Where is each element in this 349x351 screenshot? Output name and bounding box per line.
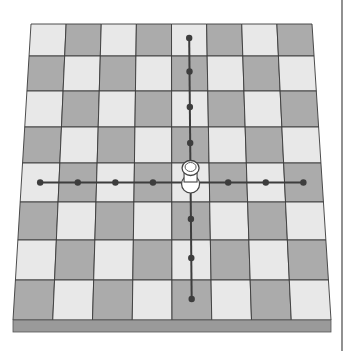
move-dot (263, 179, 269, 185)
dark-square (18, 202, 58, 240)
dark-square (210, 240, 250, 280)
move-dot (186, 35, 192, 41)
dark-square (61, 91, 99, 127)
light-square (278, 56, 316, 91)
board-edge (13, 320, 331, 332)
white-rook-icon (182, 161, 200, 194)
rook-movement-diagram (0, 0, 349, 351)
move-dot (75, 179, 81, 185)
board-front-edge (13, 320, 331, 332)
dark-square (136, 24, 172, 56)
light-square (94, 240, 134, 280)
dark-square (207, 24, 243, 56)
dark-square (277, 24, 314, 56)
dark-square (65, 24, 102, 56)
dark-square (287, 240, 328, 280)
move-dot (188, 296, 194, 302)
dark-square (133, 240, 172, 280)
light-square (53, 280, 94, 320)
move-dot (300, 179, 306, 185)
light-square (56, 202, 96, 240)
dark-square (248, 202, 288, 240)
light-square (60, 127, 98, 163)
move-dot (187, 104, 193, 110)
dark-square (99, 56, 136, 91)
dark-square (95, 202, 134, 240)
light-square (244, 91, 282, 127)
light-square (210, 202, 249, 240)
move-dot (225, 179, 231, 185)
dark-square (23, 127, 62, 163)
light-square (63, 56, 100, 91)
dark-square (245, 127, 283, 163)
light-square (242, 24, 279, 56)
light-square (100, 24, 136, 56)
light-square (15, 240, 56, 280)
light-square (211, 280, 251, 320)
dark-square (55, 240, 95, 280)
move-dot (187, 140, 193, 146)
move-dot (150, 179, 156, 185)
light-square (289, 280, 331, 320)
light-square (98, 91, 135, 127)
light-square (132, 280, 172, 320)
dark-square (27, 56, 65, 91)
light-square (207, 56, 244, 91)
light-square (135, 56, 171, 91)
dark-square (93, 280, 133, 320)
light-square (208, 127, 246, 163)
light-square (249, 240, 289, 280)
dark-square (13, 280, 55, 320)
move-dot (112, 179, 118, 185)
dark-square (97, 127, 135, 163)
dark-square (280, 91, 318, 127)
light-square (286, 202, 326, 240)
move-dot (188, 216, 194, 222)
dark-square (243, 56, 280, 91)
move-dot (188, 255, 194, 261)
dark-square (250, 280, 291, 320)
light-square (282, 127, 321, 163)
dark-square (208, 91, 245, 127)
light-square (133, 202, 172, 240)
chessboard (13, 24, 331, 320)
light-square (134, 127, 171, 163)
dark-square (135, 91, 172, 127)
light-square (29, 24, 66, 56)
move-dot (186, 68, 192, 74)
move-dot (37, 179, 43, 185)
light-square (25, 91, 63, 127)
